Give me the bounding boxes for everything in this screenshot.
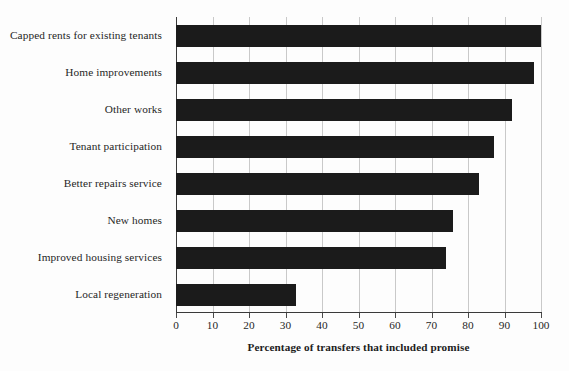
tickmark <box>213 313 214 318</box>
category-label: Better repairs service <box>0 177 170 189</box>
bar <box>176 284 296 306</box>
category-label: Capped rents for existing tenants <box>0 29 170 41</box>
bar-row <box>176 173 541 195</box>
bar-row <box>176 62 541 84</box>
x-tick-label: 40 <box>316 319 327 331</box>
bar <box>176 210 453 232</box>
x-tick-label: 90 <box>499 319 510 331</box>
x-tick-label: 50 <box>353 319 364 331</box>
x-tick-label: 20 <box>243 319 254 331</box>
x-axis-title: Percentage of transfers that included pr… <box>176 341 541 353</box>
x-tick-label: 0 <box>173 319 179 331</box>
bar <box>176 62 534 84</box>
bar-row <box>176 136 541 158</box>
x-tick-label: 70 <box>426 319 437 331</box>
tickmark <box>249 313 250 318</box>
bar <box>176 136 494 158</box>
category-label: Home improvements <box>0 66 170 78</box>
bar-row <box>176 210 541 232</box>
x-tick-label: 100 <box>533 319 550 331</box>
category-label: New homes <box>0 214 170 226</box>
category-label: Local regeneration <box>0 288 170 300</box>
category-label: Tenant participation <box>0 140 170 152</box>
horizontal-bar-chart: Capped rents for existing tenantsHome im… <box>0 0 569 371</box>
bar-row <box>176 284 541 306</box>
tickmark <box>359 313 360 318</box>
tickmark <box>395 313 396 318</box>
tickmark <box>468 313 469 318</box>
category-label: Improved housing services <box>0 251 170 263</box>
bar-row <box>176 247 541 269</box>
tickmark <box>322 313 323 318</box>
tickmark <box>286 313 287 318</box>
x-tick-label: 80 <box>462 319 473 331</box>
bar-row <box>176 25 541 47</box>
bar <box>176 99 512 121</box>
x-axis-tick-labels: 0102030405060708090100 <box>176 319 541 335</box>
x-tick-label: 60 <box>389 319 400 331</box>
category-label: Other works <box>0 103 170 115</box>
tickmark <box>505 313 506 318</box>
bar <box>176 247 446 269</box>
plot-area <box>176 17 541 313</box>
tickmark <box>541 313 542 318</box>
bar <box>176 173 479 195</box>
bar <box>176 25 541 47</box>
bar-series <box>176 17 541 313</box>
bar-row <box>176 99 541 121</box>
gridline <box>541 17 542 313</box>
tickmark <box>432 313 433 318</box>
tickmark <box>176 313 177 318</box>
x-tick-label: 10 <box>207 319 218 331</box>
x-tick-label: 30 <box>280 319 291 331</box>
category-axis-labels: Capped rents for existing tenantsHome im… <box>0 17 170 313</box>
